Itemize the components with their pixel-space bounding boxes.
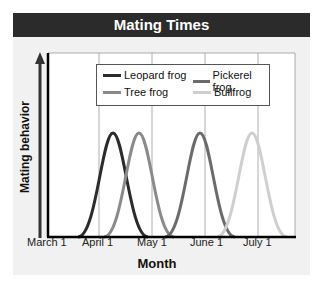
y-axis-label: Mating behavior	[18, 82, 32, 212]
x-tick: July 1	[243, 236, 272, 248]
x-tick: April 1	[82, 236, 113, 248]
legend-item-bull: Bullfrog	[193, 86, 251, 98]
x-tick: June 1	[190, 236, 223, 248]
legend-item-leopard: Leopard frog	[103, 69, 186, 81]
x-tick: May 1	[137, 236, 167, 248]
x-tick: March 1	[27, 236, 67, 248]
legend-item-tree: Tree frog	[103, 86, 168, 98]
arrow-up-icon	[35, 52, 45, 64]
legend: Leopard frog Pickerel frog Tree frog Bul…	[96, 64, 270, 106]
x-axis-label: Month	[0, 256, 314, 271]
